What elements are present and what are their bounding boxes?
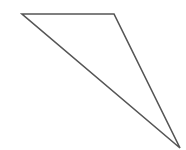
triangle-shape (22, 14, 180, 148)
triangle-diagram (0, 0, 186, 150)
